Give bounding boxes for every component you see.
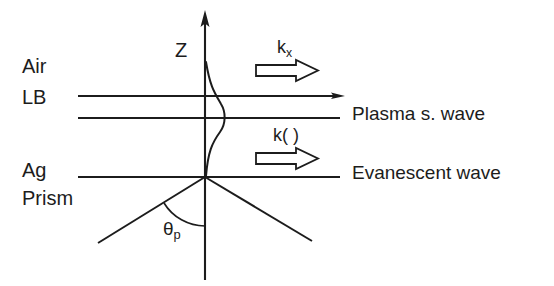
label-theta-subscript: p	[174, 227, 181, 242]
label-air: Air	[22, 56, 46, 76]
label-kx-subscript: x	[286, 46, 292, 60]
field-profile-curve	[206, 62, 225, 176]
label-evanescent-wave: Evanescent wave	[352, 163, 501, 182]
label-kx: kx	[277, 38, 292, 59]
k-theta-block-arrow	[256, 148, 318, 169]
label-lb: LB	[22, 87, 46, 107]
reflected-ray	[205, 177, 312, 241]
label-plasma-surface-wave: Plasma s. wave	[352, 104, 485, 123]
label-k-theta: k( )	[273, 126, 299, 144]
label-z-axis: Z	[175, 40, 187, 60]
label-theta-p: θp	[163, 219, 181, 242]
label-theta-symbol: θ	[163, 218, 174, 239]
label-prism: Prism	[22, 188, 73, 208]
spr-diagram: Air LB Ag Prism Z kx k( ) θp Plasma s. w…	[0, 0, 554, 286]
incident-ray	[98, 177, 205, 243]
label-kx-base: k	[277, 37, 286, 57]
label-ag: Ag	[22, 160, 46, 180]
kx-block-arrow	[256, 60, 318, 81]
